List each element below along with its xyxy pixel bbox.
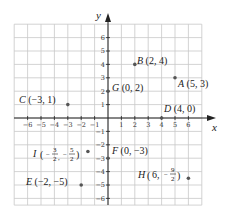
frac-num: 9: [171, 166, 175, 174]
point-label-f: F (0, −3): [111, 145, 148, 157]
x-tick-label: −3: [63, 121, 73, 129]
point-label-h: H ( 6, − 9 2 ): [137, 166, 180, 183]
point-labels: B (2, 4) A (5, 3) G (0, 2) C (−3, 1) D (…: [19, 55, 208, 188]
y-tick-label: 3: [101, 74, 105, 82]
point-label-i-name: I: [32, 148, 37, 159]
point-i: [86, 150, 90, 154]
x-tick-label: −5: [36, 121, 46, 129]
point-label-d: D (4, 0): [163, 103, 195, 115]
paren-close: ): [76, 149, 79, 161]
point-d: [160, 116, 164, 120]
y-tick-label: −3: [95, 155, 105, 163]
x-tick-label: 6: [186, 121, 190, 129]
y-tick-label: −1: [95, 128, 105, 136]
minus-sign: −: [164, 171, 168, 179]
y-tick-label: 6: [101, 34, 105, 42]
point-label-c: C (−3, 1): [19, 94, 55, 106]
x-tick-label: 3: [146, 121, 150, 129]
point-label-g: G (0, 2): [112, 82, 143, 94]
point-a: [173, 76, 177, 80]
x-tick-label: −6: [23, 121, 33, 129]
frac-num: 5: [70, 146, 74, 154]
y-tick-label: −5: [95, 181, 105, 189]
point-label-i: I ( − 3 2 , − 5 2 ): [32, 146, 79, 163]
point-label-b: B (2, 4): [137, 55, 167, 67]
y-tick-label: −6: [95, 195, 105, 203]
point-g: [106, 89, 110, 93]
y-tick-label: −2: [95, 141, 105, 149]
point-label-a: A (5, 3): [177, 78, 208, 90]
y-axis-label: y: [95, 9, 101, 21]
paren-open: (: [40, 149, 44, 161]
frac-den: 2: [171, 175, 175, 183]
x-tick-label: 5: [173, 121, 177, 129]
minus-sign: −: [46, 151, 50, 159]
y-tick-label: 2: [101, 88, 105, 96]
frac-den: 2: [70, 155, 74, 163]
x-tick-label: 2: [133, 121, 137, 129]
x-tick-label: 1: [119, 121, 123, 129]
point-label-h-name: H: [137, 169, 146, 180]
y-tick-label: 4: [101, 61, 105, 69]
y-axis-arrow-icon: [105, 13, 111, 22]
point-f: [106, 156, 110, 160]
paren-close: ): [177, 170, 180, 182]
x-tick-label: 4: [160, 121, 164, 129]
point-e: [79, 183, 83, 187]
coordinate-plane: x y −6−5−4−3−2−1123456654321−1−2−3−4−5−6…: [0, 0, 230, 214]
point-b: [133, 63, 137, 67]
x-tick-label: −4: [50, 121, 60, 129]
x-axis-label: x: [211, 121, 217, 133]
point-c: [66, 103, 70, 107]
frac-den: 2: [53, 155, 57, 163]
y-tick-label: 5: [101, 47, 105, 55]
point-h: [187, 177, 191, 181]
h-x-value: 6,: [152, 169, 160, 180]
comma: ,: [58, 154, 60, 162]
point-label-e: E (−2, −5): [25, 176, 68, 188]
minus-sign: −: [63, 151, 67, 159]
frac-num: 3: [53, 146, 57, 154]
y-tick-label: 1: [101, 101, 105, 109]
y-tick-label: −4: [95, 168, 105, 176]
x-tick-label: −2: [76, 121, 86, 129]
